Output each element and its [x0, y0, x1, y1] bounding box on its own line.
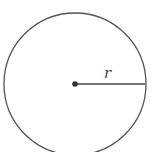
- center-point: [72, 81, 78, 87]
- circle-diagram: r: [0, 0, 159, 152]
- radius-label: r: [104, 64, 112, 82]
